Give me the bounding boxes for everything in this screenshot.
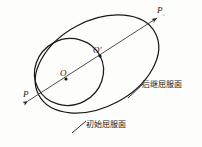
subsequent-label-leader-line	[128, 84, 143, 98]
subsequent-yield-surface-ellipse	[19, 0, 176, 133]
axis-label-p-start-text: P	[23, 89, 29, 99]
center-label-o-text: O	[60, 68, 67, 78]
center-label-o-prime: O′	[93, 46, 101, 55]
caption-subsequent-yield-surface-text: 后继屈服面	[142, 80, 182, 89]
axis-label-p-end: P◦	[157, 6, 165, 17]
center-label-o-prime-mark: ′	[100, 45, 102, 55]
axis-label-p-end-base: P	[157, 5, 163, 15]
caption-subsequent-yield-surface: 后继屈服面	[142, 81, 182, 89]
caption-initial-yield-surface: 初始屈服面	[86, 121, 126, 129]
axis-label-p-start: P	[23, 90, 29, 99]
center-label-o: O	[60, 69, 67, 78]
axis-label-p-end-subscript: ◦	[163, 12, 165, 18]
initial-label-leader-line	[72, 121, 86, 133]
yield-surface-figure: P P◦ O O′ 后继屈服面 初始屈服面	[0, 0, 202, 147]
caption-initial-yield-surface-text: 初始屈服面	[86, 120, 126, 129]
